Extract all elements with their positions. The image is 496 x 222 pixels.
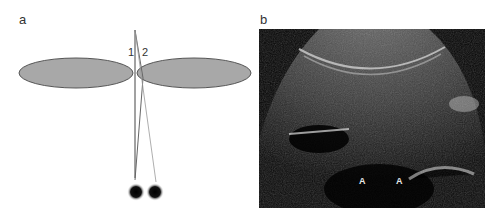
marker-a-2: A [396, 176, 403, 186]
beam-diagram [0, 0, 252, 222]
beam-label-2: 2 [142, 46, 148, 58]
target-dot-2 [146, 183, 164, 201]
marker-a-1: A [359, 176, 366, 186]
right-lobe [137, 58, 251, 88]
target-dot-1 [127, 183, 145, 201]
panel-a-diagram: a 1 2 [0, 0, 252, 222]
left-lobe [19, 58, 133, 88]
panel-b-ultrasound: A A [259, 29, 485, 208]
ultrasound-texture [259, 29, 485, 208]
panel-label-b: b [260, 12, 267, 27]
beam-label-1: 1 [128, 46, 134, 58]
beam-2-refracted [135, 78, 143, 180]
